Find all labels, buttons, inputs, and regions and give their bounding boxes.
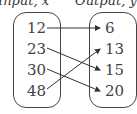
mapping-arrows xyxy=(0,0,137,114)
